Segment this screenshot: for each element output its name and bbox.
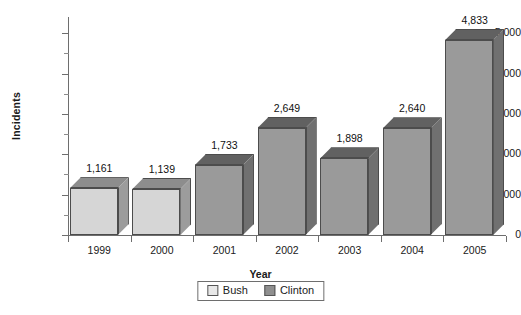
- x-tick-label-2001: 2001: [194, 244, 254, 256]
- bar-front-face: [132, 189, 180, 235]
- y-minor-tick-mark: [64, 94, 69, 95]
- x-tick-label-1999: 1999: [69, 244, 129, 256]
- y-tick-mark: [62, 74, 69, 75]
- y-tick-mark: [62, 154, 69, 155]
- bar-chart: Incidents 5,0004,0003,0002,0001,0000 1,1…: [0, 0, 521, 315]
- bar-front-face: [320, 158, 368, 235]
- bar-front-face: [258, 128, 306, 235]
- x-tick-mark: [131, 236, 132, 242]
- bar-2000: [132, 178, 180, 235]
- bar-value-label: 2,640: [380, 103, 444, 114]
- y-axis-title: Incidents: [10, 81, 22, 151]
- x-axis-line: [68, 235, 506, 236]
- bar-value-label: 1,733: [192, 140, 256, 151]
- bar-side-face: [431, 117, 442, 235]
- legend-swatch-icon: [264, 285, 275, 296]
- bar-value-label: 2,649: [255, 103, 319, 114]
- y-minor-tick-mark: [64, 215, 69, 216]
- x-tick-label-2004: 2004: [382, 244, 442, 256]
- bar-front-face: [195, 165, 243, 235]
- legend-swatch-icon: [207, 285, 218, 296]
- y-tick-mark: [62, 114, 69, 115]
- bar-1999: [70, 177, 118, 235]
- x-tick-mark: [443, 236, 444, 242]
- x-tick-label-2002: 2002: [257, 244, 317, 256]
- bar-side-face: [243, 154, 254, 235]
- bar-2005: [445, 29, 493, 235]
- bar-2003: [320, 147, 368, 235]
- x-tick-mark: [381, 236, 382, 242]
- y-minor-tick-mark: [64, 174, 69, 175]
- x-tick-mark: [193, 236, 194, 242]
- bar-side-face: [306, 117, 317, 235]
- bar-front-face: [70, 188, 118, 235]
- x-tick-mark: [506, 236, 507, 242]
- y-minor-tick-mark: [64, 134, 69, 135]
- bar-front-face: [445, 40, 493, 235]
- bar-side-face: [493, 29, 504, 235]
- bar-value-label: 1,161: [67, 163, 131, 174]
- bar-2004: [383, 117, 431, 235]
- legend-label: Bush: [223, 284, 248, 297]
- bar-value-label: 1,139: [130, 164, 194, 175]
- legend-item-bush: Bush: [207, 284, 248, 297]
- y-tick-mark: [62, 195, 69, 196]
- bar-2002: [258, 117, 306, 235]
- x-tick-label-2000: 2000: [132, 244, 192, 256]
- chart-legend: BushClinton: [197, 281, 324, 301]
- x-tick-mark: [256, 236, 257, 242]
- bar-value-label: 4,833: [443, 15, 507, 26]
- legend-label: Clinton: [280, 284, 314, 297]
- x-tick-label-2003: 2003: [320, 244, 380, 256]
- x-axis-title: Year: [0, 268, 521, 280]
- bar-front-face: [383, 128, 431, 235]
- x-tick-mark: [318, 236, 319, 242]
- bar-2001: [195, 154, 243, 235]
- legend-item-clinton: Clinton: [264, 284, 314, 297]
- bar-value-label: 1,898: [318, 133, 382, 144]
- x-tick-label-2005: 2005: [445, 244, 505, 256]
- y-tick-mark: [62, 33, 69, 34]
- x-tick-mark: [68, 236, 69, 242]
- bar-side-face: [368, 147, 379, 235]
- y-minor-tick-mark: [64, 53, 69, 54]
